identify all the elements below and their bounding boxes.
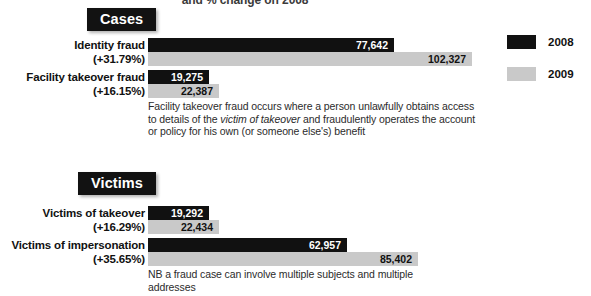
bar-value-label: 22,387 xyxy=(181,84,213,98)
chart-title: and % change on 2008 xyxy=(0,0,490,7)
bar-value-label: 22,434 xyxy=(181,220,213,234)
legend-label: 2009 xyxy=(548,68,574,80)
section-header-victims: Victims xyxy=(78,172,156,195)
row-bars: 62,95785,402 xyxy=(148,238,418,266)
bar-2008: 19,292 xyxy=(148,206,209,220)
row-label: Facility takeover fraud(+16.15%) xyxy=(0,70,145,98)
bar-2008: 62,957 xyxy=(148,238,347,252)
row-label-change: (+31.79%) xyxy=(0,52,145,66)
bar-2009: 22,387 xyxy=(148,84,219,98)
bar-2009: 85,402 xyxy=(148,252,418,266)
bar-value-label: 85,402 xyxy=(380,252,412,266)
row-label-change: (+35.65%) xyxy=(0,252,145,266)
chart-row: Identity fraud(+31.79%)77,642102,327 xyxy=(0,38,591,68)
row-label: Victims of impersonation(+35.65%) xyxy=(0,238,145,266)
bar-2008: 19,275 xyxy=(148,70,209,84)
row-bars: 19,27522,387 xyxy=(148,70,219,98)
footnote-victims: NB a fraud case can involve multiple sub… xyxy=(148,268,448,293)
row-label: Victims of takeover(+16.29%) xyxy=(0,206,145,234)
bar-2008: 77,642 xyxy=(148,38,394,52)
bar-value-label: 102,327 xyxy=(428,52,466,66)
footnote-cases: Facility takeover fraud occurs where a p… xyxy=(148,100,478,138)
chart-row: Victims of impersonation(+35.65%)62,9578… xyxy=(0,238,591,268)
section-header-cases: Cases xyxy=(87,8,156,31)
legend-item: 2009 xyxy=(507,67,574,81)
row-label-name: Identity fraud xyxy=(74,39,145,51)
legend-swatch-icon xyxy=(507,35,536,49)
bar-value-label: 19,292 xyxy=(171,206,203,220)
legend-item: 2008 xyxy=(507,35,574,49)
bar-value-label: 62,957 xyxy=(309,238,341,252)
row-label: Identity fraud(+31.79%) xyxy=(0,38,145,66)
row-label-name: Facility takeover fraud xyxy=(26,71,145,83)
bar-2009: 102,327 xyxy=(148,52,472,66)
row-label-name: Victims of impersonation xyxy=(11,239,145,251)
row-label-name: Victims of takeover xyxy=(43,207,145,219)
row-bars: 19,29222,434 xyxy=(148,206,219,234)
bar-value-label: 19,275 xyxy=(171,70,203,84)
row-bars: 77,642102,327 xyxy=(148,38,472,66)
legend-label: 2008 xyxy=(548,36,574,48)
bar-value-label: 77,642 xyxy=(356,38,388,52)
bar-2009: 22,434 xyxy=(148,220,219,234)
row-label-change: (+16.15%) xyxy=(0,84,145,98)
row-label-change: (+16.29%) xyxy=(0,220,145,234)
chart-row: Victims of takeover(+16.29%)19,29222,434 xyxy=(0,206,591,236)
legend-swatch-icon xyxy=(507,67,536,81)
chart-legend: 20082009 xyxy=(507,35,574,99)
chart-row: Facility takeover fraud(+16.15%)19,27522… xyxy=(0,70,591,100)
